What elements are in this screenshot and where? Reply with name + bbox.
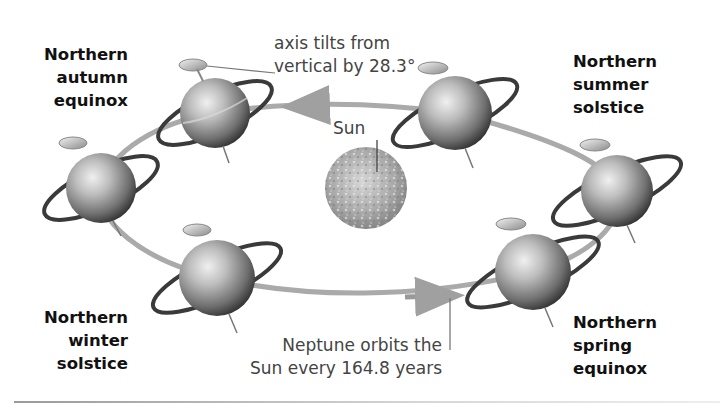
planet-lower-left <box>145 224 289 333</box>
planet-far-right <box>545 139 689 243</box>
spin-arrow-icon <box>418 62 448 74</box>
label-winter-solstice: Northern winter solstice <box>20 306 128 375</box>
label-spring-equinox: Northern spring equinox <box>573 311 657 380</box>
axis-line <box>627 225 635 243</box>
bottom-divider <box>14 401 720 403</box>
spin-arrow-icon <box>59 137 87 149</box>
orbit-period-note: Neptune orbits the Sun every 164.8 years <box>220 334 442 380</box>
planet-upper-left <box>150 59 279 163</box>
axis-line <box>229 314 237 333</box>
label-autumn-equinox: Northern autumn equinox <box>20 43 128 112</box>
sun-label: Sun <box>333 118 365 138</box>
orbit-direction-arrow-top <box>305 105 330 106</box>
sun <box>325 140 407 229</box>
tilt-leader-line <box>207 66 275 73</box>
spin-arrow-icon <box>183 224 211 236</box>
spin-arrow-icon <box>580 139 610 151</box>
spin-arrow-icon <box>179 59 207 81</box>
orbit-direction-arrow-bottom <box>405 296 440 297</box>
axis-tilt-note: axis tilts from vertical by 28.3° <box>274 32 415 78</box>
axis-line <box>465 148 473 168</box>
spin-arrow-icon <box>496 218 526 230</box>
axis-line <box>223 146 229 163</box>
planet-far-left <box>36 137 165 236</box>
label-summer-solstice: Northern summer solstice <box>573 50 657 119</box>
axis-line <box>545 308 553 327</box>
